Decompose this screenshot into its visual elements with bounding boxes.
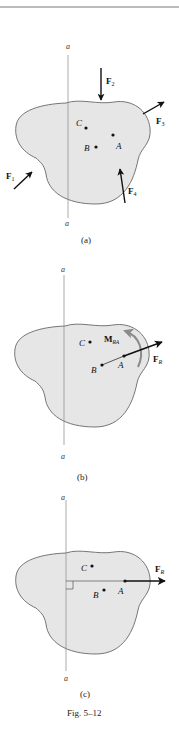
point-c (90, 564, 93, 567)
point-a-label: A (117, 586, 124, 596)
point-b (94, 145, 97, 148)
point-a (111, 133, 114, 136)
axis-label-bottom: a (65, 219, 69, 228)
point-c (88, 340, 91, 343)
panel-c: a a C B A FR (c) (16, 493, 165, 699)
point-c-label: C (81, 563, 88, 573)
axis-label-bottom: a (61, 452, 65, 461)
force-f2-label: F2 (106, 76, 115, 87)
point-a-label: A (115, 141, 122, 151)
point-a-label: A (117, 360, 124, 370)
axis-label-top: a (61, 265, 65, 274)
panel-c-caption: (c) (80, 689, 90, 699)
force-f1-label: F1 (6, 171, 15, 182)
figure-caption: Fig. 5–12 (67, 708, 102, 718)
force-f4-label: F4 (128, 186, 137, 197)
panel-a: a a C B A F2 F3 F1 F4 (a) (6, 42, 165, 245)
point-b (100, 363, 103, 366)
axis-label-bottom: a (64, 674, 68, 683)
point-b-label: B (93, 590, 99, 600)
resultant-force-label: FR (153, 354, 163, 365)
point-c-label: C (79, 338, 86, 348)
figure-5-12: a a C B A F2 F3 F1 F4 (a) a a C B (0, 0, 179, 751)
point-b (102, 588, 105, 591)
point-b-label: B (91, 365, 97, 375)
force-f3-arrow (143, 102, 164, 114)
force-f1-arrow (14, 172, 32, 189)
force-f3-label: F3 (156, 116, 165, 127)
panel-a-caption: (a) (81, 235, 91, 245)
point-c-label: C (76, 118, 83, 128)
axis-label-top: a (61, 493, 65, 502)
axis-label-top: a (66, 42, 70, 51)
point-c (84, 126, 87, 129)
point-b-label: B (84, 143, 90, 153)
panel-b-caption: (b) (77, 472, 88, 482)
panel-b: a a C B A MRA FR (b) (15, 265, 163, 482)
resultant-force-label: FR (155, 564, 165, 575)
